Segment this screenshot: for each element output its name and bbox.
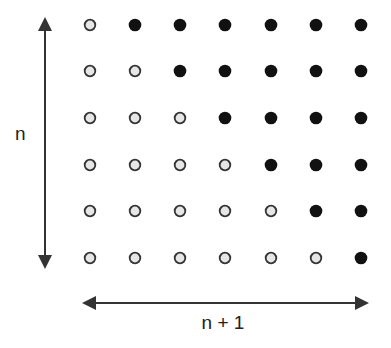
filled-dot [265,65,278,78]
hollow-dot [175,206,186,217]
dot-grid [85,19,368,265]
arrow-up-icon [38,17,52,31]
vertical-arrow [38,17,52,269]
hollow-dot [85,113,96,124]
filled-dot [219,112,232,125]
hollow-dot [175,113,186,124]
hollow-dot [85,160,96,171]
filled-dot [355,65,368,78]
hollow-dot [130,253,141,264]
filled-dot [265,19,278,32]
filled-dot [174,19,187,32]
filled-dot [310,205,323,218]
hollow-dot [130,113,141,124]
hollow-dot [220,206,231,217]
hollow-dot [130,160,141,171]
hollow-dot [266,206,277,217]
filled-dot [265,112,278,125]
filled-dot [219,19,232,32]
arrow-down-icon [38,255,52,269]
hollow-dot [175,253,186,264]
hollow-dot [266,253,277,264]
filled-dot [129,19,142,32]
vertical-dimension-label: n [15,124,26,143]
filled-dot [265,159,278,172]
hollow-dot [85,20,96,31]
filled-dot [310,112,323,125]
horizontal-arrow [82,296,369,310]
hollow-dot [220,253,231,264]
hollow-dot [130,66,141,77]
filled-dot [355,159,368,172]
hollow-dot [220,160,231,171]
hollow-dot [85,253,96,264]
filled-dot [355,112,368,125]
horizontal-dimension-label: n + 1 [202,313,245,332]
filled-dot [310,19,323,32]
filled-dot [174,65,187,78]
hollow-dot [85,206,96,217]
filled-dot [355,19,368,32]
filled-dot [355,205,368,218]
filled-dot [355,252,368,265]
filled-dot [310,159,323,172]
filled-dot [310,65,323,78]
filled-dot [219,65,232,78]
hollow-dot [311,253,322,264]
hollow-dot [130,206,141,217]
dot-grid-diagram [0,0,391,348]
arrow-left-icon [82,296,96,310]
hollow-dot [175,160,186,171]
arrow-right-icon [355,296,369,310]
hollow-dot [85,66,96,77]
